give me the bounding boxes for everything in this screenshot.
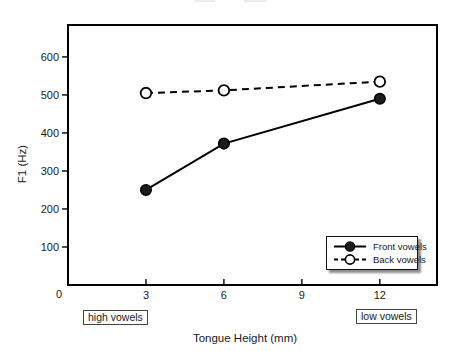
y-tick-label: 400 [41,127,59,139]
x-tick-label: 3 [143,289,149,301]
x-tick-label: 9 [299,289,305,301]
x-tick-label: 12 [374,289,386,301]
front-vowels-line-sample-icon [332,240,368,253]
y-tick-label: 500 [41,89,59,101]
legend: Front vowels Back vowels [326,236,418,270]
back-vowels-line-sample-icon [332,253,368,266]
chart-figure: 369121002003004005006000 F1 (Hz) Tongue … [0,0,455,351]
y-tick-label: 200 [41,203,59,215]
back-vowels-data-point [219,85,230,96]
x-axis-title: Tongue Height (mm) [128,331,362,345]
y-tick-label: 100 [41,241,59,253]
y-axis-title: F1 (Hz) [15,125,29,203]
y-tick-label: 300 [41,165,59,177]
legend-entry-back-vowels: Back vowels [332,253,417,266]
legend-entry-front-vowels: Front vowels [332,240,417,253]
front-vowels-line [146,99,380,190]
back-vowels-data-point [375,76,386,87]
back-vowels-data-point [141,88,152,99]
front-vowels-data-point [141,185,152,196]
plot-area: 369121002003004005006000 [0,0,455,351]
origin-tick-label: 0 [56,288,62,300]
front-vowels-data-point [375,93,386,104]
annotation-high-vowels: high vowels [83,310,148,325]
legend-label-back-vowels: Back vowels [373,254,426,265]
legend-label-front-vowels: Front vowels [373,241,427,252]
front-vowels-data-point [219,138,230,149]
x-tick-label: 6 [221,289,227,301]
y-tick-label: 600 [41,51,59,63]
back-vowels-line [146,82,380,93]
annotation-low-vowels: low vowels [356,309,417,324]
